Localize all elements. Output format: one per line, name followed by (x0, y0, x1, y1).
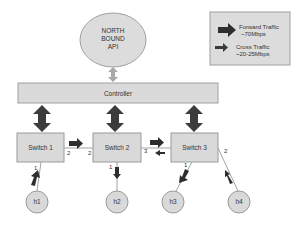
host-h4-label: h4 (235, 198, 243, 205)
host-h2-label: h2 (113, 198, 121, 205)
api-controller-double-arrow-icon (108, 67, 118, 82)
host-h3: h3 (162, 191, 184, 213)
switch-2-label: Switch 2 (105, 144, 130, 151)
host-h2: h2 (106, 191, 128, 213)
legend-forward-line1: Forward Traffic (239, 24, 279, 30)
northbound-api-node: NORTH BOUND API (80, 13, 146, 67)
s2-port-1: 1 (109, 164, 113, 170)
forward-arrow-s2-s3-icon (150, 137, 164, 148)
switch-2: Switch 2 (93, 133, 141, 162)
s2-port-3: 3 (144, 148, 148, 154)
host-h4: h4 (228, 191, 250, 213)
s1-port-1: 1 (34, 165, 38, 171)
switch-3-label: Switch 3 (182, 144, 207, 151)
controller-node: Controller (18, 83, 218, 103)
legend: Forward Traffic ~70Mbps Cross Traffic ~2… (210, 12, 290, 65)
cross-arrow-s2-h2-icon (113, 167, 121, 179)
s1-port-2: 2 (67, 150, 71, 156)
forward-arrow-s1-s2-icon (69, 138, 83, 149)
controller-switch2-double-arrow-icon (106, 105, 124, 132)
s3-port-2: 2 (224, 148, 228, 154)
host-h1-label: h1 (33, 198, 41, 205)
controller-switch3-double-arrow-icon (185, 105, 203, 132)
controller-switch1-double-arrow-icon (33, 105, 51, 132)
link-s3-h4 (218, 148, 238, 191)
switch-3: Switch 3 (171, 133, 218, 162)
sdn-topology-diagram: NORTH BOUND API Controller Forward Traff… (0, 0, 294, 225)
legend-forward-line2: ~70Mbps (241, 31, 266, 37)
legend-cross-line1: Cross Traffic (236, 44, 270, 50)
s3-port-1: 1 (184, 162, 188, 168)
host-h3-label: h3 (169, 198, 177, 205)
api-label-line1: NORTH (102, 27, 125, 34)
api-label-line3: API (108, 43, 119, 50)
switch-1-label: Switch 1 (28, 144, 53, 151)
cross-arrow-s3-s2-icon (155, 150, 165, 156)
api-label-line2: BOUND (101, 35, 125, 42)
s2-port-2: 2 (88, 150, 92, 156)
controller-label: Controller (104, 90, 133, 97)
host-h1: h1 (26, 191, 48, 213)
legend-cross-line2: ~20-25Mbps (236, 51, 270, 57)
switch-1: Switch 1 (17, 133, 64, 162)
forward-arrow-s3-h3-icon (179, 169, 189, 183)
